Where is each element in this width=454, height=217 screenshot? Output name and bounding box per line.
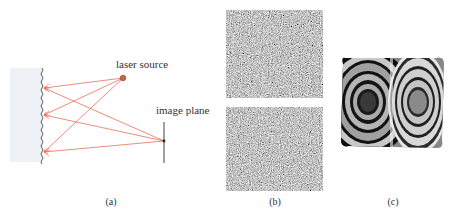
caption-c: (c): [387, 196, 398, 207]
fringe-right-rings: [388, 56, 444, 148]
scattered-rays: [44, 88, 164, 152]
speckle-formation-diagram: [0, 0, 220, 190]
panel-b-speckle: [226, 10, 323, 191]
speckle-image-bottom: [226, 107, 323, 191]
laser-source-label: laser source: [116, 58, 168, 70]
panel-c-fringes: [341, 56, 444, 148]
rough-surface: [10, 68, 42, 162]
incident-rays: [44, 78, 123, 152]
laser-source-dot: [120, 75, 126, 81]
fringe-pattern: [341, 56, 444, 148]
speckle-image-top: [226, 10, 323, 98]
scatter-arrowheads: [44, 84, 50, 156]
panel-a-diagram: laser source image plane: [0, 0, 220, 190]
speckle-images: [226, 10, 323, 191]
caption-b: (b): [269, 196, 281, 207]
image-plane-label: image plane: [156, 104, 209, 116]
caption-a: (a): [105, 196, 116, 207]
image-plane-point: [163, 140, 166, 143]
